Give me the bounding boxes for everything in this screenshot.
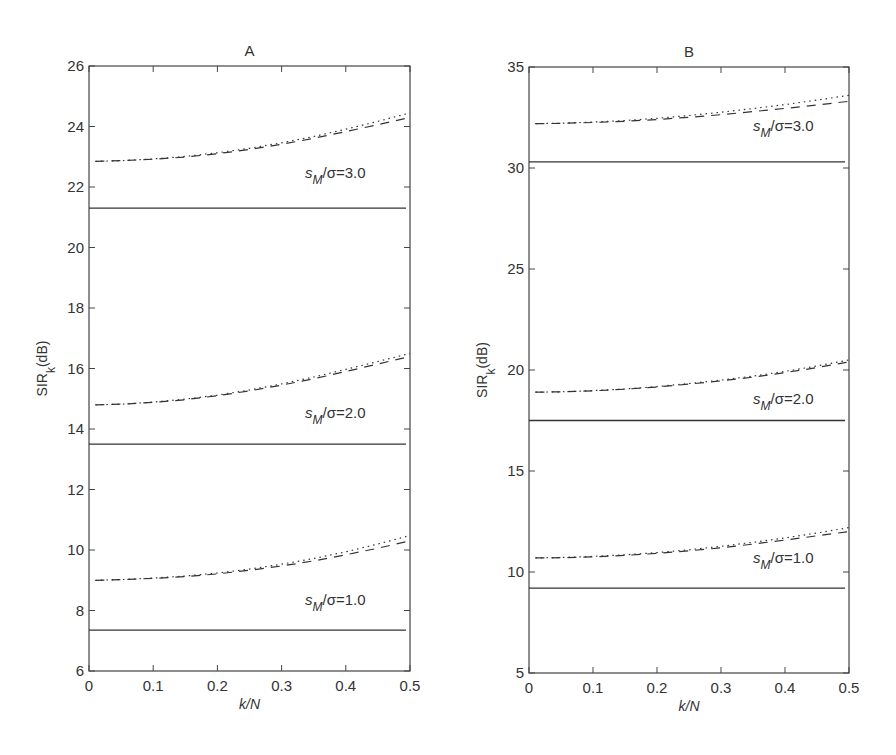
y-axis-label: SIRk(dB) — [474, 342, 498, 398]
y-tick-label: 25 — [507, 260, 524, 277]
y-axis-label: SIRk(dB) — [34, 341, 58, 397]
y-tick-label: 12 — [67, 481, 84, 498]
series-dotted-line — [95, 113, 410, 161]
y-tick-label: 5 — [516, 664, 524, 681]
x-tick-label: 0.2 — [207, 677, 228, 694]
series-annotation: sM/σ=3.0 — [753, 117, 814, 140]
series-dotted-line — [95, 353, 410, 404]
plot-frame — [529, 67, 849, 673]
series-annotation: sM/σ=2.0 — [753, 390, 814, 413]
x-tick-label: 0 — [85, 677, 93, 694]
series-dashed-line — [95, 541, 410, 580]
x-tick-label: 0 — [525, 679, 533, 696]
series-dotted-line — [95, 536, 410, 581]
series-dashed-line — [535, 362, 849, 392]
y-tick-label: 30 — [507, 159, 524, 176]
y-tick-label: 18 — [67, 299, 84, 316]
y-tick-label: 8 — [76, 602, 84, 619]
x-tick-label: 0.3 — [711, 679, 732, 696]
series-dotted-line — [535, 360, 849, 392]
panel-a: A00.10.20.30.40.568101214161820222426k/N… — [34, 42, 420, 712]
figure: A00.10.20.30.40.568101214161820222426k/N… — [0, 0, 896, 755]
y-tick-label: 10 — [507, 563, 524, 580]
y-tick-label: 15 — [507, 462, 524, 479]
y-tick-label: 16 — [67, 360, 84, 377]
y-tick-label: 22 — [67, 178, 84, 195]
x-tick-label: 0.2 — [647, 679, 668, 696]
y-tick-label: 10 — [67, 541, 84, 558]
series-dashed-line — [95, 356, 410, 404]
x-tick-label: 0.5 — [839, 679, 860, 696]
x-axis-label: k/N — [679, 698, 701, 714]
x-tick-label: 0.4 — [775, 679, 796, 696]
series-dashed-line — [95, 117, 410, 161]
series-annotation: sM/σ=1.0 — [753, 549, 814, 572]
panel-title: B — [684, 43, 694, 60]
panel-b: B00.10.20.30.40.55101520253035k/NSIRk(dB… — [474, 43, 859, 714]
series-annotation: sM/σ=2.0 — [305, 404, 366, 427]
y-tick-label: 20 — [67, 239, 84, 256]
x-tick-label: 0.4 — [335, 677, 356, 694]
y-tick-label: 6 — [76, 662, 84, 679]
plot-frame — [89, 66, 410, 671]
series-annotation: sM/σ=3.0 — [305, 164, 366, 187]
y-tick-label: 24 — [67, 118, 84, 135]
x-tick-label: 0.1 — [143, 677, 164, 694]
series-annotation: sM/σ=1.0 — [305, 591, 366, 614]
panel-title: A — [244, 42, 254, 59]
y-tick-label: 26 — [67, 57, 84, 74]
y-tick-label: 35 — [507, 58, 524, 75]
x-tick-label: 0.1 — [583, 679, 604, 696]
y-tick-label: 14 — [67, 420, 84, 437]
x-tick-label: 0.5 — [400, 677, 421, 694]
x-tick-label: 0.3 — [271, 677, 292, 694]
y-tick-label: 20 — [507, 361, 524, 378]
x-axis-label: k/N — [239, 696, 261, 712]
